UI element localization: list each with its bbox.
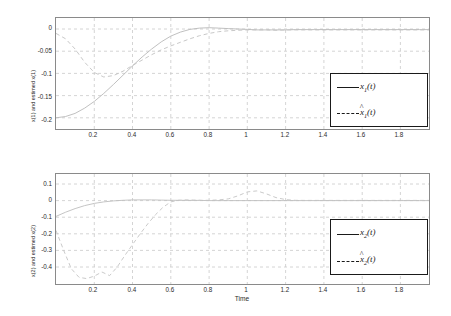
y-tick-label: 0 xyxy=(34,196,52,203)
legend-solid-line-icon xyxy=(337,83,359,91)
legend-label-dashed: ^x2(t) xyxy=(360,255,376,266)
hat-accent-icon: ^ xyxy=(360,104,364,112)
x-tick-label: 1.4 xyxy=(319,286,328,293)
x-axis-label-bottom: Time xyxy=(212,295,272,302)
y-tick-label: -0.1 xyxy=(34,70,52,77)
x-tick-label: 1.8 xyxy=(395,131,404,138)
legend-dashed-line-icon xyxy=(337,109,359,117)
x-tick-label: 1.2 xyxy=(281,131,290,138)
legend-dashed-line-icon xyxy=(337,257,359,265)
x-tick-label: 1.8 xyxy=(395,286,404,293)
x-tick-label: 0.2 xyxy=(89,131,98,138)
figure-canvas: x(1) and estimed x(1) 0 -0.05 -0.1 -0.15… xyxy=(0,0,451,316)
x-tick-label: 1.6 xyxy=(357,131,366,138)
series-line-solid-bottom xyxy=(56,200,429,217)
chart-panel-bottom: x(2) and estimed x(2) 0.1 0 -0.1 -0.2 -0… xyxy=(0,155,451,316)
y-tick-label: -0.15 xyxy=(34,93,52,100)
legend-label-solid: x2(t) xyxy=(360,228,376,239)
x-tick-label: 0.4 xyxy=(128,286,137,293)
y-tick-label: -0.2 xyxy=(34,116,52,123)
y-tick-label: 0.1 xyxy=(34,180,52,187)
x-tick-label: 0.6 xyxy=(166,286,175,293)
x-tick-label: 0.8 xyxy=(204,131,213,138)
y-tick-label: -0.4 xyxy=(34,263,52,270)
x-tick-label: 0.6 xyxy=(166,131,175,138)
chart-panel-top: x(1) and estimed x(1) 0 -0.05 -0.1 -0.15… xyxy=(0,0,451,158)
x-tick-label: 1.4 xyxy=(319,131,328,138)
legend-bottom: x2(t) ^x2(t) xyxy=(330,219,428,275)
hat-accent-icon: ^ xyxy=(360,251,364,259)
x-tick-label: 1 xyxy=(244,286,248,293)
legend-item-solid: x2(t) xyxy=(331,220,427,247)
x-tick-label: 0.4 xyxy=(128,131,137,138)
y-tick-label: -0.1 xyxy=(34,213,52,220)
legend-solid-line-icon xyxy=(337,230,359,238)
series-line-dashed-top xyxy=(56,30,429,77)
legend-item-dashed: ^x2(t) xyxy=(331,247,427,274)
legend-item-dashed: ^x1(t) xyxy=(331,100,427,126)
x-tick-label: 1.6 xyxy=(357,286,366,293)
y-tick-label: -0.05 xyxy=(34,47,52,54)
y-tick-label: -0.3 xyxy=(34,246,52,253)
y-tick-label: -0.2 xyxy=(34,230,52,237)
legend-item-solid: x1(t) xyxy=(331,74,427,100)
x-tick-label: 0.2 xyxy=(89,286,98,293)
x-tick-label: 1.2 xyxy=(281,286,290,293)
y-tick-label: 0 xyxy=(34,24,52,31)
legend-top: x1(t) ^x1(t) xyxy=(330,73,428,127)
x-tick-label: 1 xyxy=(244,131,248,138)
legend-label-solid: x1(t) xyxy=(360,82,376,93)
legend-label-dashed: ^x1(t) xyxy=(360,108,376,119)
x-tick-label: 0.8 xyxy=(204,286,213,293)
